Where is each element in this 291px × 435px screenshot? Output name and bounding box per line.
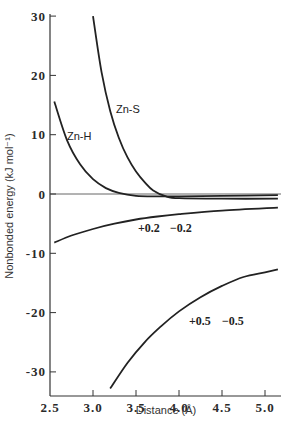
label-zn-s: Zn-S xyxy=(116,103,140,115)
x-tick-label: 2.5 xyxy=(40,400,59,415)
curve-zn-h xyxy=(54,102,278,197)
y-ticks: 3020100-10-20-30 xyxy=(26,9,56,380)
label-plus-0-5: +0.5 xyxy=(189,314,211,328)
y-tick-label: -20 xyxy=(26,305,46,320)
label-plus-0-2: +0.2 xyxy=(138,221,160,235)
label-minus-0-2: −0.2 xyxy=(170,221,192,235)
curve-charge-0-5 xyxy=(110,269,278,388)
energy-distance-chart: 3020100-10-20-30 2.53.03.54.04.55.0 Dist… xyxy=(0,0,291,435)
y-tick-label: 10 xyxy=(31,127,46,142)
curve-charge-0-2 xyxy=(54,208,278,243)
x-tick-label: 4.5 xyxy=(212,400,231,415)
y-tick-label: -30 xyxy=(26,364,46,379)
y-tick-label: 0 xyxy=(39,187,47,202)
y-tick-label: 30 xyxy=(31,9,46,24)
label-minus-0-5: −0.5 xyxy=(222,314,244,328)
x-axis-title: Distance (Å) xyxy=(136,404,197,416)
x-tick-label: 5.0 xyxy=(255,400,274,415)
y-axis-title: Nonbonded energy (kJ mol⁻¹) xyxy=(3,133,15,278)
y-tick-label: -10 xyxy=(26,246,46,261)
y-tick-label: 20 xyxy=(31,68,46,83)
label-zn-h: Zn-H xyxy=(67,130,92,142)
axes xyxy=(50,14,281,396)
x-tick-label: 3.0 xyxy=(83,400,102,415)
curves xyxy=(54,16,278,388)
